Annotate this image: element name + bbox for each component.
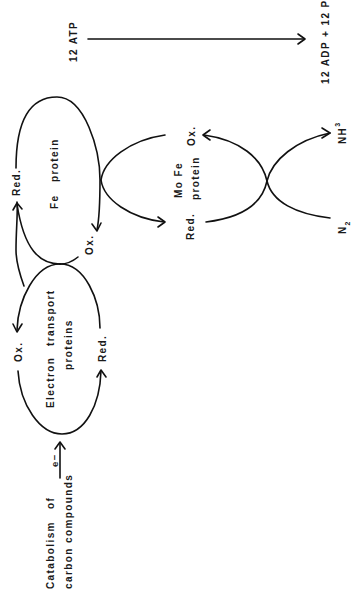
arrowhead-icon: [92, 223, 101, 231]
fe-protein-name-line1: Fe: [49, 195, 60, 209]
et-name-line2: transport: [45, 290, 56, 347]
atp-hydrolysis-arrow: [88, 34, 305, 44]
mofe-oxidized-label: Ox.: [186, 126, 197, 146]
nh3-sub: 3: [334, 121, 341, 126]
fe-reduced-label: Red.: [11, 169, 22, 196]
atp-input-label: 12 ATP: [68, 21, 79, 62]
mofe-name-line1: Mo Fe: [173, 162, 184, 198]
nitrogenase-electron-flow-diagram: 12 ATP 12 ADP + 12 Pi Red. Fe protein Ox…: [0, 0, 356, 589]
source-line2: carbon compounds: [63, 474, 74, 589]
product-nh3-label: NH3: [334, 121, 348, 144]
substrate-n2-label: N2: [337, 220, 351, 234]
mofe-name-line2: protein: [190, 156, 201, 200]
fe-protein-cycle: [13, 97, 101, 286]
et-reduced-label: Red.: [97, 335, 108, 362]
mofe-reduced-label: Red.: [185, 213, 196, 240]
source-line1-a: Catabolism: [45, 521, 56, 589]
atp-output-label: 12 ADP + 12 Pi: [320, 0, 331, 84]
fe-electron-junction-curve: [60, 257, 78, 264]
nh3-main: NH: [337, 127, 348, 144]
electron-label: e−: [49, 453, 60, 467]
et-name-line3: proteins: [63, 319, 74, 370]
et-name-line1: Electron: [45, 357, 56, 408]
fe-protein-name-line2: protein: [49, 138, 60, 182]
fe-oxidized-label: Ox.: [84, 235, 95, 255]
n2-sub: 2: [344, 220, 351, 225]
source-line1-b: of: [45, 497, 56, 509]
arrowhead-icon: [322, 128, 330, 138]
mofe-protein-cycle: [203, 128, 330, 222]
electron-transport-cycle: [13, 264, 106, 434]
et-oxidized-label: Ox.: [13, 342, 24, 362]
n2-main: N: [337, 225, 348, 234]
fe-mofe-exchange: [101, 135, 165, 227]
